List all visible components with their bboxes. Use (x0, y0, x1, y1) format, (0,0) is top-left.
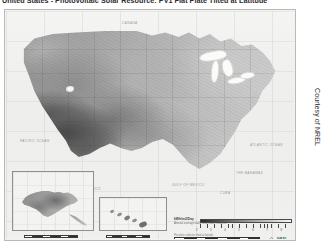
legend-tick: 4 (224, 229, 226, 234)
inset-alaska[interactable] (12, 171, 94, 231)
sea-label-pacific: PACIFIC OCEAN (20, 139, 50, 143)
map-canvas[interactable]: PACIFIC OCEAN ATLANTIC OCEAN GULF OF MEX… (6, 11, 294, 239)
hawaii-scale-bar (106, 235, 150, 238)
legend-tick-labels: 2 3 4 5 6 7 8 9 (196, 229, 294, 234)
sea-label-gulf: GULF OF MEXICO (172, 183, 205, 187)
sea-label-bahamas: THE BAHAMAS (236, 171, 263, 175)
scale-bar-segments (174, 237, 260, 239)
courtesy-credit: Courtesy of NREL (314, 88, 321, 146)
legend-colorbar (200, 219, 292, 224)
legend-title: kWh/m2/Day (174, 217, 194, 221)
page-title: United States - Photovoltaic Solar Resou… (2, 0, 320, 5)
legend-tick: 5 (238, 229, 240, 234)
nrel-logo: NREL (268, 235, 294, 239)
hawaii-graticule (100, 198, 166, 230)
nrel-diamond-mark (268, 237, 275, 240)
map-poster[interactable]: PACIFIC OCEAN ATLANTIC OCEAN GULF OF MEX… (4, 9, 296, 241)
legend-tick: 3 (210, 229, 212, 234)
sea-label-atlantic: ATLANTIC OCEAN (250, 143, 283, 147)
sea-label-cuba: CUBA (220, 191, 230, 195)
legend-tick: 8 (280, 229, 282, 234)
map-scale-bar: 0 250 500 750 1000 (174, 237, 270, 239)
legend-tick: 7 (266, 229, 268, 234)
legend-tick: 6 (252, 229, 254, 234)
sea-label-canada: CANADA (122, 21, 138, 25)
legend-tick: 2 (196, 229, 198, 234)
legend-colorbar-ticks (200, 224, 292, 228)
alaska-scale-bar (24, 235, 78, 238)
inset-hawaii[interactable] (99, 197, 167, 231)
aleutian-islands (17, 220, 51, 228)
nrel-wordmark: NREL (277, 237, 288, 239)
